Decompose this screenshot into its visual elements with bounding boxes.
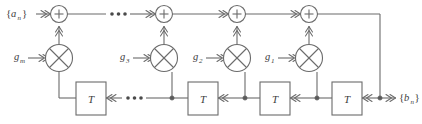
delay-block-1-label: T	[344, 93, 351, 105]
adder-1[interactable]	[301, 6, 318, 23]
gain-label-3: g 3	[120, 51, 130, 65]
ellipsis-bottom-dot-1	[126, 96, 130, 100]
gain-label-1-subscript: 1	[271, 57, 275, 65]
output-sequence-label: { b n }	[399, 91, 420, 106]
input-label-letter: a	[11, 8, 16, 19]
gain-label-1: g 1	[265, 51, 275, 65]
multiplier-to-adder-wires	[59, 26, 309, 44]
gain-label-m-letter: g	[14, 51, 19, 62]
ellipsis-top-dot-2	[117, 12, 121, 16]
multiplier-3[interactable]	[151, 45, 178, 72]
output-label-letter: b	[404, 92, 409, 103]
adder-2[interactable]	[229, 6, 246, 23]
junction-dot-output-tap	[378, 96, 382, 100]
delay-block-3-label: T	[200, 93, 207, 105]
junction-dot-3	[170, 96, 174, 100]
multiplier-1[interactable]	[296, 45, 323, 72]
ellipsis-bottom-dot-3	[139, 96, 143, 100]
ellipsis-top-dot-3	[123, 12, 127, 16]
multiplier-2[interactable]	[224, 45, 251, 72]
gain-label-2-letter: g	[193, 51, 198, 62]
gain-label-1-letter: g	[265, 51, 270, 62]
output-label-close-brace: }	[415, 91, 420, 103]
adder-m[interactable]	[51, 6, 68, 23]
delay-block-1[interactable]: T	[332, 82, 362, 115]
input-label-close-brace: }	[22, 7, 27, 19]
gain-label-3-letter: g	[120, 51, 125, 62]
delay-block-4[interactable]: T	[76, 82, 106, 115]
filter-diagram-root: T T T T	[0, 0, 422, 124]
gain-label-m: g m	[14, 51, 25, 65]
signal-flow-diagram: T T T T	[0, 0, 422, 124]
gain-label-2-subscript: 2	[199, 57, 203, 65]
input-sequence-label: { a n }	[6, 7, 27, 22]
junction-dot-2	[243, 96, 247, 100]
delay-block-3[interactable]: T	[188, 82, 218, 115]
ellipsis-bottom-dot-2	[133, 96, 137, 100]
delay-block-2[interactable]: T	[260, 82, 290, 115]
gain-label-3-subscript: 3	[125, 57, 130, 65]
delay-block-2-label: T	[272, 93, 279, 105]
junction-dot-1	[315, 96, 319, 100]
adder-3[interactable]	[156, 6, 173, 23]
multiplier-m[interactable]	[46, 45, 73, 72]
gain-label-m-subscript: m	[20, 57, 25, 65]
ellipsis-top	[110, 12, 127, 16]
delay-block-4-label: T	[88, 93, 95, 105]
input-label-subscript: n	[18, 14, 22, 22]
ellipsis-top-dot-1	[110, 12, 114, 16]
ellipsis-bottom	[126, 96, 143, 100]
gain-label-2: g 2	[193, 51, 203, 65]
